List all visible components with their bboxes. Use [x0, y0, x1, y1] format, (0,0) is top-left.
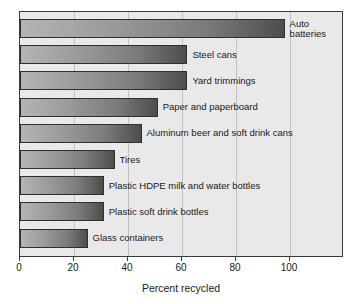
bar — [20, 202, 104, 221]
bar-row: Plastic HDPE milk and water bottles — [20, 176, 260, 195]
bar-row: Yard trimmings — [20, 71, 256, 90]
recycling-bar-chart: Auto batteriesSteel cansYard trimmingsPa… — [0, 0, 356, 304]
bar-row: Tires — [20, 150, 140, 169]
bar-label: Paper and paperboard — [163, 102, 258, 112]
bar — [20, 229, 88, 248]
x-tick-label: 20 — [67, 262, 78, 273]
x-tick-label: 80 — [229, 262, 240, 273]
bar-label: Plastic HDPE milk and water bottles — [109, 181, 261, 191]
bar-label: Tires — [120, 155, 141, 165]
bar-row: Steel cans — [20, 45, 237, 64]
bar-label: Glass containers — [93, 233, 164, 243]
plot-area: Auto batteriesSteel cansYard trimmingsPa… — [19, 11, 343, 257]
bars-layer: Auto batteriesSteel cansYard trimmingsPa… — [20, 12, 342, 256]
x-axis-title: Percent recycled — [19, 282, 343, 294]
x-tick-mark — [127, 257, 128, 261]
x-tick-label: 40 — [121, 262, 132, 273]
x-axis: 020406080100 — [19, 257, 343, 277]
bar-row: Plastic soft drink bottles — [20, 202, 208, 221]
bar-label: Yard trimmings — [192, 76, 255, 86]
bar — [20, 150, 115, 169]
bar-row: Paper and paperboard — [20, 98, 258, 117]
x-tick-mark — [181, 257, 182, 261]
bar-row: Auto batteries — [20, 19, 342, 38]
bar-label: Auto batteries — [290, 19, 342, 39]
x-tick-label: 0 — [16, 262, 22, 273]
bar — [20, 124, 142, 143]
bar-row: Glass containers — [20, 229, 163, 248]
bar-label: Steel cans — [192, 50, 236, 60]
bar — [20, 45, 187, 64]
x-tick-mark — [19, 257, 20, 261]
bar — [20, 176, 104, 195]
x-tick-label: 100 — [281, 262, 298, 273]
bar — [20, 19, 285, 38]
x-tick-label: 60 — [175, 262, 186, 273]
bar-label: Plastic soft drink bottles — [109, 207, 209, 217]
bar-row: Aluminum beer and soft drink cans — [20, 124, 293, 143]
x-tick-mark — [73, 257, 74, 261]
x-tick-mark — [289, 257, 290, 261]
bar — [20, 98, 158, 117]
bar — [20, 71, 187, 90]
bar-label: Aluminum beer and soft drink cans — [147, 128, 293, 138]
x-tick-mark — [235, 257, 236, 261]
